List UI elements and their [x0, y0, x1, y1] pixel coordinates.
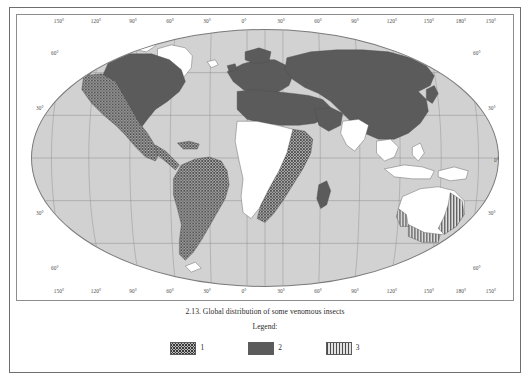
region-scandinavia [245, 48, 271, 64]
region-japan [426, 86, 438, 104]
legend-swatch-stripes-icon [326, 342, 352, 355]
landmass-layer [32, 30, 498, 286]
lon-tick-top-60e: 60° [314, 19, 322, 24]
lon-tick-bottom-60w: 60° [166, 289, 174, 294]
lon-tick-bottom-60e: 60° [314, 289, 322, 294]
legend-label-1: 1 [200, 344, 204, 351]
lat-tick-right-30n: 30° [488, 106, 496, 111]
region-new-zealand [474, 217, 486, 233]
legend-swatch-crosshatch-icon [170, 342, 196, 355]
lon-tick-top-150w2: 150° [486, 19, 496, 24]
legend-row: 1 2 3 [16, 342, 514, 355]
figure-caption: 2.13. Global distribution of some venomo… [16, 307, 514, 317]
lon-tick-bottom-180: 180° [456, 289, 466, 294]
lon-tick-bottom-120w: 120° [91, 289, 101, 294]
legend-item-2: 2 [248, 342, 282, 355]
region-iceland [207, 60, 218, 68]
region-arctic-islands [106, 42, 131, 55]
figure-container: 150° 120° 90° 60° 30° 0° 30° 60° 90° 120… [9, 7, 521, 373]
legend-label-3: 3 [356, 344, 360, 351]
lon-tick-top-180: 180° [456, 19, 466, 24]
region-philippines [412, 143, 424, 161]
legend-label-2: 2 [278, 344, 282, 351]
legend-swatch-solid-icon [248, 342, 274, 355]
region-southeast-asia [377, 139, 399, 161]
lon-tick-top-150w: 150° [54, 19, 64, 24]
region-north-africa-middle-east [237, 90, 331, 126]
lat-tick-left-60s: 60° [51, 266, 59, 271]
region-india [341, 119, 369, 151]
lon-tick-top-120w: 120° [91, 19, 101, 24]
lon-tick-bottom-120e: 120° [387, 289, 397, 294]
lat-tick-left-60n: 60° [51, 51, 59, 56]
region-indonesia [384, 165, 434, 179]
world-projection-globe [31, 29, 499, 287]
region-arctic-islands-2 [135, 40, 156, 52]
lon-tick-bottom-0: 0° [242, 289, 247, 294]
lat-tick-right-60n: 60° [473, 51, 481, 56]
legend-title: Legend: [16, 322, 514, 332]
lon-tick-bottom-90e: 90° [351, 289, 359, 294]
lon-tick-bottom-30e: 30° [277, 289, 285, 294]
region-southern-islands [185, 262, 201, 272]
lat-tick-right-0: 0° [494, 158, 499, 163]
map-stage: 150° 120° 90° 60° 30° 0° 30° 60° 90° 120… [17, 15, 513, 300]
lon-tick-top-90e: 90° [351, 19, 359, 24]
region-madagascar [317, 181, 331, 209]
map-panel: 150° 120° 90° 60° 30° 0° 30° 60° 90° 120… [16, 14, 514, 301]
lat-tick-right-30s: 30° [488, 211, 496, 216]
legend-item-3: 3 [326, 342, 360, 355]
lat-tick-right-60s: 60° [473, 266, 481, 271]
lon-tick-top-120e: 120° [387, 19, 397, 24]
lon-tick-top-150e: 150° [424, 19, 434, 24]
lon-tick-top-0: 0° [242, 19, 247, 24]
lon-tick-top-90w: 90° [129, 19, 137, 24]
lon-tick-bottom-150e: 150° [424, 289, 434, 294]
caption-block: 2.13. Global distribution of some venomo… [16, 307, 514, 355]
lat-tick-left-30n: 30° [36, 106, 44, 111]
lat-tick-left-30s: 30° [36, 211, 44, 216]
region-arabia [315, 107, 343, 131]
region-central-america [155, 145, 179, 170]
region-tasmania [442, 240, 451, 248]
region-caribbean [177, 141, 199, 149]
lon-tick-top-30e: 30° [277, 19, 285, 24]
lon-tick-bottom-90w: 90° [129, 289, 137, 294]
lon-tick-bottom-150w2: 150° [486, 289, 496, 294]
region-south-america [173, 157, 229, 260]
lon-tick-top-30w: 30° [203, 19, 211, 24]
lon-tick-top-60w: 60° [166, 19, 174, 24]
region-new-guinea [438, 167, 468, 181]
lon-tick-bottom-30w: 30° [203, 289, 211, 294]
lon-tick-bottom-150w: 150° [54, 289, 64, 294]
legend-item-1: 1 [170, 342, 204, 355]
